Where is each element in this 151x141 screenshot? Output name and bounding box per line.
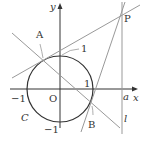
diagram-canvas: y x a O A P B C l 1 1 −1 −1	[0, 0, 151, 141]
one-right-label: 1	[84, 78, 90, 89]
neg-one-left-label: −1	[11, 93, 26, 104]
a-label: a	[123, 91, 129, 102]
y-axis-label: y	[49, 1, 56, 12]
leader-a	[40, 44, 43, 58]
neg-one-bottom-label: −1	[44, 124, 59, 135]
leader-one	[62, 49, 79, 55]
y-axis-arrow-icon	[58, 3, 63, 9]
line-l-label: l	[124, 113, 127, 124]
origin-label: O	[49, 93, 57, 104]
circle-c-label: C	[21, 112, 29, 123]
x-axis-label: x	[133, 92, 139, 103]
leader-b	[92, 106, 93, 115]
point-p-label: P	[124, 13, 131, 24]
point-b-label: B	[88, 119, 95, 130]
point-a-label: A	[35, 29, 44, 40]
x-axis-arrow-icon	[132, 87, 138, 92]
one-top-label: 1	[81, 43, 87, 54]
